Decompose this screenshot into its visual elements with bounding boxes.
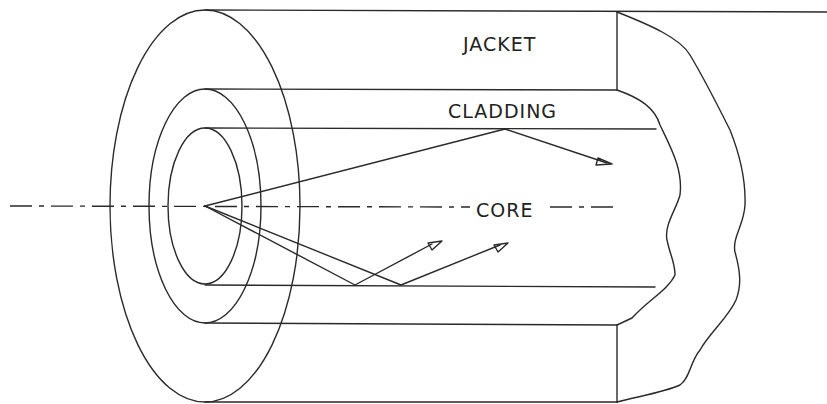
lower-ray-1-arrowhead-icon bbox=[428, 241, 442, 250]
outer-break-outline bbox=[617, 12, 745, 402]
lower-ray-2 bbox=[205, 206, 500, 285]
jacket-label: JACKET bbox=[462, 33, 536, 55]
jacket-top-edge bbox=[205, 10, 827, 12]
fiber-axis bbox=[10, 206, 470, 207]
lower-ray-1 bbox=[205, 206, 432, 285]
cladding-bottom-edge bbox=[205, 323, 617, 325]
core-bottom-edge bbox=[205, 285, 655, 287]
lower-ray-2-arrowhead-icon bbox=[494, 243, 508, 252]
core-label: CORE bbox=[476, 199, 533, 221]
upper-ray bbox=[205, 129, 607, 206]
core-top-edge bbox=[205, 128, 656, 129]
inner-break-outline bbox=[617, 90, 680, 325]
cladding-top-edge bbox=[205, 89, 617, 90]
cladding-label: CLADDING bbox=[448, 100, 557, 122]
fiber-diagram: JACKET CLADDING CORE bbox=[0, 0, 827, 404]
